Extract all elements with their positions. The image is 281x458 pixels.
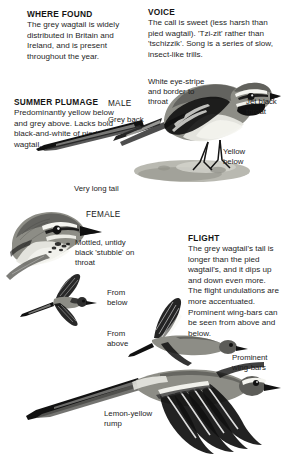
summer-plumage-heading: SUMMER PLUMAGE [14, 97, 118, 107]
flight-from-above-wingtip [0, 250, 60, 284]
where-found-body: The grey wagtail is widely distributed i… [27, 20, 137, 62]
tag-female: FEMALE [86, 210, 121, 220]
callout-prominent-wing-bars: Prominent wing-bars [232, 353, 280, 373]
callout-lemon-yellow-rump: Lemon-yellow rump [104, 409, 168, 429]
voice-heading: VOICE [148, 7, 276, 17]
flight-heading: FLIGHT [188, 233, 280, 243]
callout-yellow-below: Yellow below [223, 147, 267, 167]
callout-white-eye-stripe: White eye-stripe and border to throat [148, 77, 212, 108]
where-found-heading: WHERE FOUND [27, 9, 137, 19]
section-where-found: WHERE FOUND The grey wagtail is widely d… [27, 9, 137, 62]
callout-very-long-tail: Very long tail [74, 184, 150, 194]
tag-male: MALE [108, 99, 132, 109]
voice-body: The call is sweet (less harsh than pied … [148, 18, 276, 60]
callout-jet-black-throat: Jet black throat [246, 97, 280, 117]
callout-grey-back: Grey back [108, 115, 168, 125]
callout-from-above: From above [107, 329, 147, 349]
field-guide-page: WHERE FOUND The grey wagtail is widely d… [0, 0, 281, 458]
callout-from-below: From below [107, 288, 147, 308]
section-voice: VOICE The call is sweet (less harsh than… [148, 7, 276, 60]
callout-mottled-stubble: Mottled, untidy black 'stubble' on throa… [75, 238, 145, 269]
